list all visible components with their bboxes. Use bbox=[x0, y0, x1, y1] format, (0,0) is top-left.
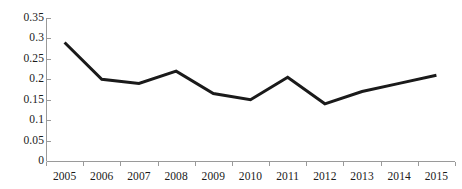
x-axis-tick-label: 2005 bbox=[53, 171, 76, 183]
x-axis-tick-label: 2006 bbox=[90, 171, 113, 183]
x-axis-tick-label: 2007 bbox=[127, 171, 150, 183]
x-axis-tick-label: 2014 bbox=[388, 171, 411, 183]
x-axis-tick-label: 2015 bbox=[425, 171, 448, 183]
x-axis-tick-label: 2010 bbox=[239, 171, 262, 183]
x-axis-tick-label: 2012 bbox=[313, 171, 336, 183]
x-axis-tick-label: 2011 bbox=[276, 171, 299, 183]
x-axis-tick-label: 2008 bbox=[164, 171, 187, 183]
x-axis-tick-label: 2009 bbox=[202, 171, 225, 183]
x-axis-tick-label: 2013 bbox=[350, 171, 373, 183]
x-axis-tick-labels: 2005200620072008200920102011201220132014… bbox=[0, 0, 462, 189]
line-chart: 00.050.10.150.20.250.30.35 2005200620072… bbox=[0, 0, 462, 189]
